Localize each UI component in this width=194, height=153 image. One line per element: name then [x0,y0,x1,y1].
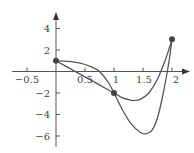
y-axis-arrow-icon [53,12,59,20]
data-point-marker [53,58,59,64]
y-tick-label: −4 [35,109,50,120]
series [56,39,172,134]
data-points [53,36,175,96]
y-tick-label: −2 [35,88,50,99]
x-axis-arrow-icon [182,69,190,75]
chart: −0.5 0.5 1 1.5 2 4 2 −2 −4 −6 [0,0,194,153]
x-tick-label: 2 [173,74,179,85]
curve-deep [56,39,172,134]
y-tick-label: −6 [35,131,50,142]
data-point-marker [169,36,175,42]
data-point-marker [111,90,117,96]
x-tick-label: −0.5 [15,74,39,85]
x-tick-label: 1.5 [136,74,152,85]
y-tick-label: 2 [44,45,50,56]
y-tick-label: 4 [44,23,50,34]
x-tick-label: 1 [113,74,119,85]
